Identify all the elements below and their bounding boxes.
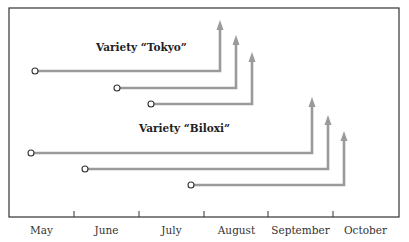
arrowhead-icon (341, 131, 348, 141)
month-label-september: September (268, 224, 333, 236)
diagram-canvas (0, 0, 409, 242)
axis-ticks (74, 211, 333, 217)
flowering-bar (148, 52, 256, 107)
start-circle-icon (32, 68, 38, 74)
start-circle-icon (114, 85, 120, 91)
flowering-bar (188, 131, 348, 188)
arrowhead-icon (325, 115, 332, 125)
arrowhead-icon (233, 35, 240, 45)
month-label-june: June (74, 224, 139, 236)
arrowhead-icon (249, 52, 256, 62)
start-circle-icon (188, 182, 194, 188)
start-circle-icon (82, 166, 88, 172)
start-circle-icon (28, 150, 34, 156)
month-label-october: October (333, 224, 398, 236)
month-label-august: August (204, 224, 269, 236)
month-label-july: July (139, 224, 204, 236)
bars (28, 20, 348, 188)
start-circle-icon (148, 101, 154, 107)
group-label-tokyo: Variety “Tokyo” (96, 41, 187, 53)
month-label-may: May (9, 224, 74, 236)
arrowhead-icon (309, 97, 316, 107)
bar-line (194, 139, 344, 185)
arrowhead-icon (217, 20, 224, 30)
group-label-biloxi: Variety “Biloxi” (139, 122, 230, 134)
